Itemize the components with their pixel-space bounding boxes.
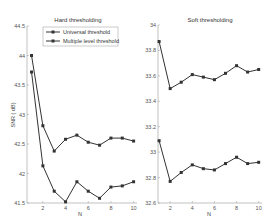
x-tick-label: 2	[41, 205, 44, 211]
x-tick-label: 4	[191, 205, 194, 211]
figure: Hard thresholding SNR ( dB) N 41.54242.5…	[0, 0, 275, 222]
hard-thresholding-panel: Hard thresholding SNR ( dB) N 41.54242.5…	[10, 17, 137, 217]
data-point-marker	[64, 138, 67, 141]
x-tick-label: 10	[256, 205, 262, 211]
data-point-marker	[257, 161, 260, 164]
data-point-marker	[191, 163, 194, 166]
x-axis-label: N	[207, 211, 211, 217]
data-point-marker	[41, 164, 44, 167]
panel-title: Soft thresholding	[187, 17, 232, 23]
data-point-marker	[53, 150, 56, 153]
legend-item-universal: Universal threshold	[63, 29, 110, 35]
axes: 32.632.83333.233.433.633.834246810	[145, 22, 262, 211]
data-point-marker	[191, 73, 194, 76]
data-point-marker	[224, 162, 227, 165]
data-point-marker	[41, 124, 44, 127]
x-tick-label: 10	[131, 205, 137, 211]
data-point-marker	[158, 40, 161, 43]
data-point-marker	[213, 168, 216, 171]
data-point-marker	[53, 190, 56, 193]
data-point-marker	[169, 180, 172, 183]
data-point-marker	[235, 156, 238, 159]
y-tick-label: 32.8	[145, 175, 156, 181]
data-point-marker	[121, 137, 124, 140]
y-tick-label: 44.5	[14, 23, 25, 29]
series-lines	[30, 54, 135, 203]
series-line	[159, 141, 259, 182]
x-tick-label: 4	[64, 205, 67, 211]
legend-item-multiple-level: Multiple level threshold	[63, 38, 119, 44]
legend: Universal threshold Multiple level thres…	[43, 27, 119, 46]
data-point-marker	[98, 144, 101, 147]
data-point-marker	[121, 184, 124, 187]
y-tick-label: 42.5	[14, 141, 25, 147]
data-point-marker	[109, 137, 112, 140]
data-point-marker	[246, 162, 249, 165]
y-tick-label: 33.8	[145, 47, 156, 53]
y-axis-label: SNR ( dB)	[10, 102, 16, 127]
data-point-marker	[180, 171, 183, 174]
soft-thresholding-panel: Soft thresholding N 32.632.83333.233.433…	[145, 17, 262, 217]
data-point-marker	[169, 87, 172, 90]
data-point-marker	[213, 78, 216, 81]
legend-marker-icon	[52, 31, 55, 34]
data-point-marker	[257, 68, 260, 71]
y-tick-label: 33.6	[145, 73, 156, 79]
y-tick-label: 33.4	[145, 98, 156, 104]
y-tick-label: 42	[19, 171, 25, 177]
x-tick-label: 6	[87, 205, 90, 211]
data-point-marker	[202, 76, 205, 79]
y-tick-label: 33.2	[145, 124, 156, 130]
y-tick-label: 44	[19, 53, 25, 59]
data-point-marker	[180, 81, 183, 84]
y-tick-label: 34	[150, 22, 156, 28]
y-tick-label: 33	[150, 149, 156, 155]
data-point-marker	[235, 64, 238, 67]
data-point-marker	[224, 72, 227, 75]
data-point-marker	[246, 71, 249, 74]
y-tick-label: 43	[19, 112, 25, 118]
data-point-marker	[158, 139, 161, 142]
data-point-marker	[98, 197, 101, 200]
data-point-marker	[132, 140, 135, 143]
x-tick-label: 8	[235, 205, 238, 211]
data-point-marker	[132, 180, 135, 183]
y-tick-label: 32.6	[145, 200, 156, 206]
series-lines	[158, 40, 261, 183]
data-point-marker	[30, 71, 33, 74]
data-point-marker	[109, 186, 112, 189]
x-tick-label: 6	[213, 205, 216, 211]
data-point-marker	[75, 180, 78, 183]
data-point-marker	[202, 167, 205, 170]
series-line	[32, 56, 134, 152]
legend-marker-icon	[52, 40, 55, 43]
data-point-marker	[87, 190, 90, 193]
data-point-marker	[64, 200, 67, 203]
x-tick-label: 8	[109, 205, 112, 211]
data-point-marker	[30, 54, 33, 57]
panel-title: Hard thresholding	[54, 17, 101, 23]
y-tick-label: 41.5	[14, 200, 25, 206]
x-axis-label: N	[78, 211, 82, 217]
series-line	[159, 42, 259, 89]
data-point-marker	[87, 141, 90, 144]
series-line	[32, 72, 134, 202]
y-tick-label: 43.5	[14, 82, 25, 88]
data-point-marker	[75, 134, 78, 137]
x-tick-label: 2	[169, 205, 172, 211]
